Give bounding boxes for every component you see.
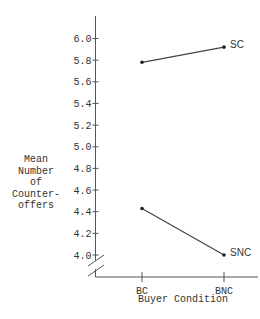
y-tick-label: 4.8	[73, 164, 91, 175]
series-line	[142, 47, 224, 62]
series-sc: SC	[140, 39, 244, 64]
series: SCSNC	[140, 39, 251, 258]
series-snc: SNC	[140, 207, 251, 258]
y-axis-title-line: offers	[18, 200, 54, 211]
y-axis-title-line: of	[30, 177, 42, 188]
y-tick-label: 4.2	[73, 229, 91, 240]
series-line	[142, 208, 224, 255]
y-tick-label: 4.6	[73, 186, 91, 197]
y-axis-title-line: Number	[18, 166, 54, 177]
y-axis: 4.04.24.44.64.85.05.25.45.65.86.0	[73, 16, 104, 277]
y-axis-title-line: Counter-	[12, 189, 60, 200]
series-label: SC	[230, 39, 244, 50]
y-tick-label: 5.2	[73, 121, 91, 132]
y-tick-label: 4.0	[73, 251, 91, 262]
series-label: SNC	[230, 247, 251, 258]
x-axis-title: Buyer Condition	[138, 294, 228, 305]
y-tick-label: 5.8	[73, 56, 91, 67]
data-point	[140, 61, 144, 65]
line-chart: 4.04.24.44.64.85.05.25.45.65.86.0 BCBNC …	[0, 0, 260, 319]
y-tick-label: 5.6	[73, 77, 91, 88]
data-point	[140, 207, 144, 211]
data-point	[222, 45, 226, 49]
y-tick-label: 5.4	[73, 99, 91, 110]
y-tick-label: 4.4	[73, 207, 91, 218]
data-point	[222, 253, 226, 257]
y-tick-label: 6.0	[73, 34, 91, 45]
y-tick-label: 5.0	[73, 142, 91, 153]
y-axis-title: MeanNumberofCounter-offers	[12, 154, 60, 211]
y-axis-title-line: Mean	[24, 154, 48, 165]
